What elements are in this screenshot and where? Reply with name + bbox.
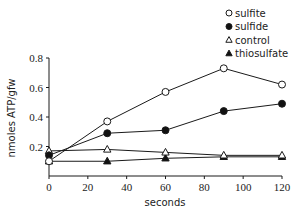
- x-tick-label: 20: [82, 181, 94, 193]
- open-circle-marker: [104, 118, 111, 125]
- x-tick-label: 40: [121, 181, 133, 193]
- legend-item-sulfide: sulfide: [226, 21, 268, 32]
- open-circle-marker: [220, 65, 227, 72]
- x-tick-label: 80: [199, 181, 211, 193]
- line-chart: 0.20.40.60.8020406080100120 sulfitesulfi…: [0, 0, 302, 214]
- x-axis-title: seconds: [145, 197, 186, 208]
- x-tick-label: 0: [46, 181, 52, 193]
- open-circle-marker: [162, 88, 169, 95]
- open-triangle-marker: [220, 151, 227, 158]
- legend-label: sulfide: [235, 21, 268, 32]
- x-tick-label: 100: [235, 181, 252, 193]
- open-circle-marker: [226, 10, 232, 16]
- data-series: [45, 65, 285, 165]
- y-tick-label: 0.4: [29, 111, 43, 123]
- y-tick-label: 0.2: [29, 141, 43, 153]
- filled-circle-marker: [220, 108, 227, 115]
- legend-label: sulfite: [235, 8, 266, 19]
- open-circle-marker: [46, 158, 53, 165]
- filled-triangle-marker: [226, 50, 232, 56]
- y-tick-label: 0.8: [29, 52, 43, 64]
- filled-circle-marker: [162, 127, 169, 134]
- y-axis-title: nmoles ATP/gfw: [6, 79, 17, 158]
- x-tick-label: 120: [274, 181, 291, 193]
- open-triangle-marker: [104, 145, 111, 152]
- legend-item-sulfite: sulfite: [226, 8, 266, 19]
- legend-label: control: [235, 35, 270, 46]
- legend-item-thiosulfate: thiosulfate: [226, 48, 288, 59]
- filled-circle-marker: [104, 130, 111, 137]
- open-triangle-marker: [162, 148, 169, 155]
- x-tick-label: 60: [160, 181, 172, 193]
- legend-item-control: control: [226, 35, 270, 46]
- open-triangle-marker: [278, 151, 285, 158]
- legend: sulfitesulfidecontrolthiosulfate: [226, 8, 288, 60]
- open-circle-marker: [279, 81, 286, 88]
- filled-circle-marker: [226, 24, 232, 30]
- filled-circle-marker: [279, 100, 286, 107]
- series-line: [49, 68, 282, 161]
- axes: 0.20.40.60.8020406080100120: [29, 52, 291, 193]
- legend-label: thiosulfate: [235, 48, 288, 59]
- open-triangle-marker: [226, 37, 232, 43]
- y-tick-label: 0.6: [29, 82, 43, 94]
- filled-triangle-marker: [104, 157, 111, 164]
